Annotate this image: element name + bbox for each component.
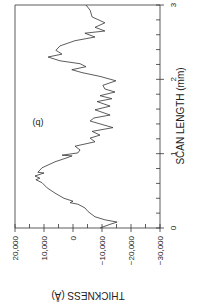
panel-label: (b) bbox=[32, 118, 43, 128]
thickness-tick-label: −10,000 bbox=[98, 235, 107, 265]
thickness-tick-label: 20,000 bbox=[11, 235, 20, 260]
thickness-tick-label: −30,000 bbox=[156, 235, 165, 265]
tick-labels: 012320,00010,0000−10,000−20,000−30,000 bbox=[11, 2, 178, 265]
thickness-tick-label: 10,000 bbox=[40, 235, 49, 260]
scan-length-label: SCAN LENGTH (mm) bbox=[175, 67, 186, 164]
scan-tick-label: 0 bbox=[169, 225, 178, 230]
thickness-tick-label: −20,000 bbox=[127, 235, 136, 265]
scan-tick-label: 3 bbox=[169, 2, 178, 7]
thickness-label: THICKNESS (Å) bbox=[51, 290, 124, 302]
thickness-curve bbox=[35, 5, 117, 228]
thickness-tick-label: 0 bbox=[69, 235, 78, 240]
chart: 012320,00010,0000−10,000−20,000−30,000 (… bbox=[0, 0, 208, 307]
